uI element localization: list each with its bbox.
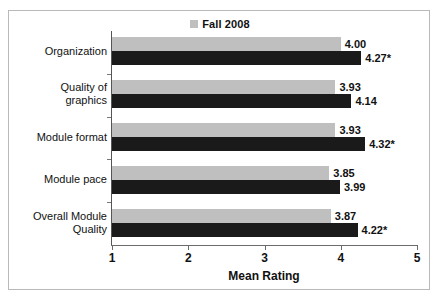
bar-value-label: 3.85 [333,166,354,180]
category-label-line: Overall Module [11,210,107,223]
category-label: Overall ModuleQuality [11,210,107,236]
category-label-line: Module pace [11,173,107,186]
y-axis-tick [107,117,111,118]
category-label: Module format [11,131,107,144]
plot-area: 4.004.27*3.934.143.934.32*3.853.993.874.… [111,31,416,245]
bar-value-label: 3.99 [344,180,365,194]
bar-value-label: 4.32* [369,137,395,151]
x-axis-tick-label: 1 [109,251,116,265]
category-label-line: Module format [11,131,107,144]
bar-value-label: 4.27* [365,51,391,65]
x-axis-tick [341,245,342,250]
bar-group: 3.853.99 [112,166,417,194]
bar-value-label: 3.93 [339,123,360,137]
x-axis-tick-label: 5 [414,251,421,265]
category-label-line: Organization [11,45,107,58]
bar-value-label: 3.93 [339,80,360,94]
bar [112,51,361,65]
x-axis-tick [265,245,266,250]
bar-value-label: 4.14 [355,94,376,108]
category-label: Organization [11,45,107,58]
x-axis-tick-labels: 12345 [111,251,417,267]
bar-value-label: 4.22* [362,223,388,237]
category-label-line: Quality [11,223,107,236]
chart-figure: Fall 2008 OrganizationQuality ofgraphics… [8,10,430,290]
x-axis-tick-label: 4 [337,251,344,265]
bar-value-label: 3.87 [335,209,356,223]
bar-group: 3.874.22* [112,209,417,237]
x-axis-tick-label: 2 [185,251,192,265]
bar [112,123,335,137]
bar [112,80,335,94]
y-axis-tick [107,74,111,75]
x-axis-tick [417,245,418,250]
category-label: Module pace [11,173,107,186]
x-axis-tick [112,245,113,250]
bar [112,209,331,223]
bar-group: 3.934.14 [112,80,417,108]
bar [112,166,329,180]
category-label: Quality ofgraphics [11,81,107,107]
category-label-line: graphics [11,94,107,107]
bar [112,94,351,108]
legend-label-fall-2008: Fall 2008 [202,19,249,30]
x-axis-tick [188,245,189,250]
x-axis-title: Mean Rating [111,269,417,283]
category-label-line: Quality of [11,81,107,94]
bar-value-label: 4.00 [345,37,366,51]
bar [112,180,340,194]
bar [112,223,358,237]
legend-swatch-fall-2008 [190,20,198,28]
y-axis-tick [107,202,111,203]
bar-group: 4.004.27* [112,37,417,65]
x-axis-tick-label: 3 [261,251,268,265]
bar [112,137,365,151]
y-axis-tick [107,159,111,160]
bar [112,37,341,51]
y-axis-category-labels: OrganizationQuality ofgraphicsModule for… [9,31,107,245]
bar-group: 3.934.32* [112,123,417,151]
chart-legend: Fall 2008 [9,16,431,32]
